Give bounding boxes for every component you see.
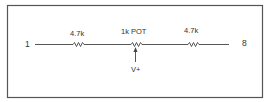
terminal-8-label: 8 <box>242 38 247 48</box>
supply-label: V+ <box>131 65 141 74</box>
resistor-r2-label: 4.7k <box>184 26 198 35</box>
resistor-r1-label: 4.7k <box>70 29 84 38</box>
resistor-r2-symbol <box>188 43 199 47</box>
terminal-1-label: 1 <box>25 39 30 49</box>
circuit-diagram: 1 4.7k 1k POT V+ 4.7k 8 <box>0 0 266 102</box>
wiper-arrow-icon <box>134 47 138 52</box>
potentiometer-symbol <box>131 43 142 47</box>
potentiometer-label: 1k POT <box>121 27 147 36</box>
resistor-r1-symbol <box>73 43 84 47</box>
